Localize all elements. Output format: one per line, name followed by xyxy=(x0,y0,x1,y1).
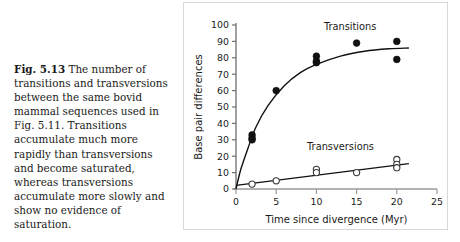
chart-area: 01020304050607080901000510152025Time sin… xyxy=(184,3,447,229)
data-point-transitions xyxy=(273,87,280,94)
x-tick-label: 15 xyxy=(351,196,363,207)
y-tick-label: 70 xyxy=(217,69,229,80)
data-point-transitions xyxy=(393,38,400,45)
series-annotation-transitions: Transitions xyxy=(323,21,376,32)
fit-curve-transitions xyxy=(236,48,409,189)
y-tick-label: 30 xyxy=(217,134,229,145)
figure-caption-text: The number of transitions and transversi… xyxy=(14,63,168,230)
y-tick-label: 100 xyxy=(211,19,229,30)
x-tick-label: 20 xyxy=(391,196,403,207)
data-point-transversions xyxy=(354,170,360,176)
figure-number: Fig. 5.13 xyxy=(14,63,65,75)
data-point-transitions xyxy=(393,56,400,63)
x-tick-label: 5 xyxy=(273,196,279,207)
figure-panel: 01020304050607080901000510152025Time sin… xyxy=(183,2,448,230)
figure-root: Fig. 5.13 The number of transitions and … xyxy=(0,0,460,242)
series-annotation-transversions: Transversions xyxy=(306,141,374,152)
x-axis-title: Time since divergence (Myr) xyxy=(264,214,407,225)
data-point-transitions xyxy=(353,40,360,47)
y-tick-label: 40 xyxy=(217,118,229,129)
y-tick-label: 80 xyxy=(217,52,229,63)
y-tick-label: 10 xyxy=(217,167,229,178)
data-point-transversions xyxy=(313,170,319,176)
y-tick-label: 60 xyxy=(217,85,229,96)
y-tick-label: 20 xyxy=(217,151,229,162)
x-tick-label: 25 xyxy=(431,196,443,207)
y-axis-title: Base pair differences xyxy=(193,54,204,159)
data-point-transversions xyxy=(273,178,279,184)
y-tick-label: 0 xyxy=(223,183,229,194)
data-point-transitions xyxy=(313,59,320,66)
y-tick-label: 90 xyxy=(217,36,229,47)
data-point-transversions xyxy=(394,165,400,171)
fit-curve-transversions xyxy=(236,164,409,186)
y-tick-label: 50 xyxy=(217,101,229,112)
x-tick-label: 0 xyxy=(233,196,239,207)
x-tick-label: 10 xyxy=(310,196,322,207)
scatter-chart: 01020304050607080901000510152025Time sin… xyxy=(184,3,447,229)
figure-caption: Fig. 5.13 The number of transitions and … xyxy=(14,62,172,231)
data-point-transversions xyxy=(249,181,255,187)
data-point-transitions xyxy=(249,136,256,143)
